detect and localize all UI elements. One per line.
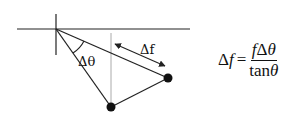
denominator: tanθ: [249, 61, 278, 80]
formula: Δf = fΔθ tanθ: [218, 36, 296, 84]
formula-lhs: Δf: [218, 50, 234, 70]
numerator-delta: Δ: [257, 40, 268, 59]
denominator-tan: tan: [249, 61, 270, 80]
lhs-variable: f: [229, 50, 234, 69]
angle-arc: [73, 41, 84, 53]
fraction: fΔθ tanθ: [249, 41, 278, 80]
denominator-theta: θ: [270, 61, 278, 80]
numerator-theta: θ: [267, 40, 275, 59]
numerator: fΔθ: [251, 41, 277, 61]
delta-theta-label: Δθ: [78, 54, 95, 69]
equals-sign: =: [237, 50, 247, 70]
right-point: [164, 74, 173, 83]
lhs-delta: Δ: [218, 50, 229, 69]
delta-f-label: Δf: [140, 42, 155, 57]
bottom-point: [107, 103, 116, 112]
connecting-segment: [111, 78, 168, 107]
